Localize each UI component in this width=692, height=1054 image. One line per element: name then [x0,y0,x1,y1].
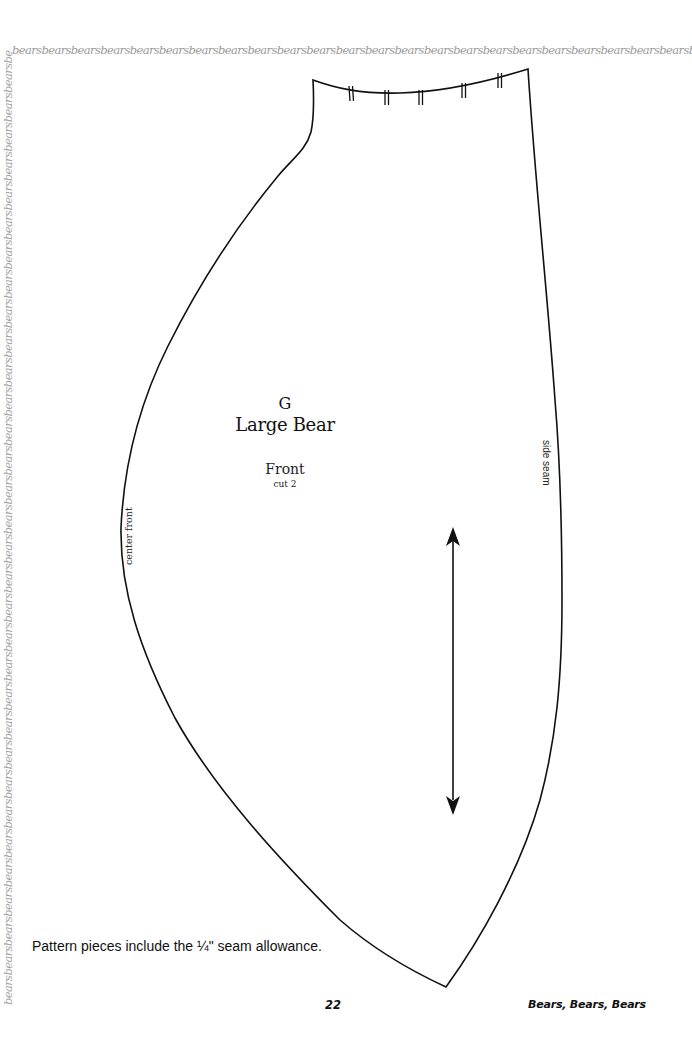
pattern-outline-path [121,69,562,987]
book-title: Bears, Bears, Bears [528,998,646,1011]
piece-cut-count: cut 2 [230,479,340,489]
piece-part: Front [230,461,340,477]
piece-name: Large Bear [200,414,370,435]
grainline-arrow-icon [446,527,460,815]
seam-allowance-note: Pattern pieces include the ¼" seam allow… [32,938,322,954]
edge-label-center-front: center front [123,507,134,565]
page-number: 22 [325,998,341,1012]
piece-letter: G [230,394,340,413]
edge-label-side-seam: side seam [541,440,552,486]
pattern-piece-outline [0,0,692,1054]
notch-marks [349,73,502,105]
